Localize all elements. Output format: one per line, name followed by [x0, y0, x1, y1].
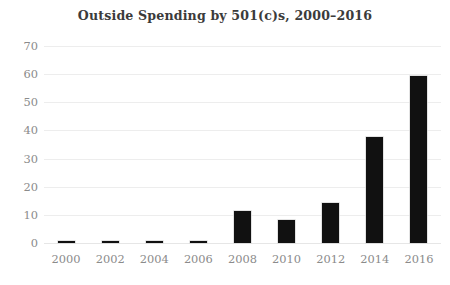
y-tick-label: 60	[4, 67, 38, 81]
bar	[410, 76, 427, 243]
bar	[190, 241, 207, 244]
y-tick-label: 0	[4, 236, 38, 250]
y-tick-label: 30	[4, 152, 38, 166]
bar	[102, 241, 119, 244]
bar	[58, 241, 75, 244]
x-tick-label: 2016	[389, 252, 449, 266]
y-tick-label: 70	[4, 39, 38, 53]
bar	[322, 203, 339, 243]
x-axis-tick-labels: 200020022004200620082010201220142016	[44, 252, 441, 274]
bar	[278, 220, 295, 243]
y-tick-label: 40	[4, 123, 38, 137]
y-tick-label: 20	[4, 180, 38, 194]
chart-container: Outside Spending by 501(c)s, 2000–2016 0…	[0, 0, 450, 285]
gridline	[44, 243, 441, 244]
y-tick-label: 50	[4, 95, 38, 109]
bar	[234, 211, 251, 243]
bar	[146, 241, 163, 244]
gridline	[44, 102, 441, 103]
gridline	[44, 46, 441, 47]
gridline	[44, 74, 441, 75]
gridline	[44, 130, 441, 131]
chart-title: Outside Spending by 501(c)s, 2000–2016	[0, 8, 450, 23]
bar	[366, 137, 383, 243]
y-tick-label: 10	[4, 208, 38, 222]
plot-area	[44, 46, 441, 243]
y-axis-tick-labels: 010203040506070	[0, 46, 38, 243]
